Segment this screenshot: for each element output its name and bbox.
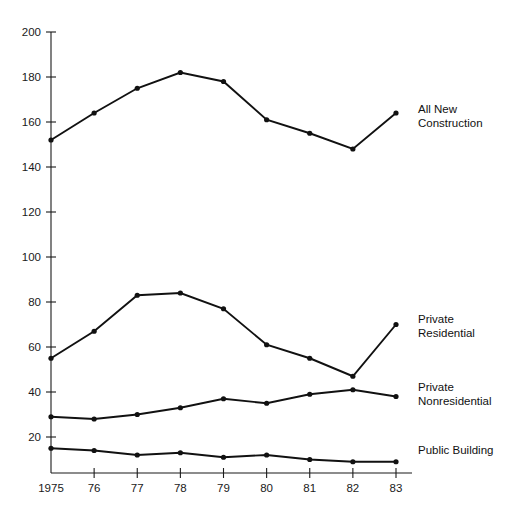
series-private-residential [48, 290, 398, 378]
data-point-all-new-construction [48, 137, 53, 142]
x-axis-tick-label: 77 [131, 482, 144, 494]
data-point-public-building [221, 455, 226, 460]
x-axis-tick-label: 1975 [38, 482, 64, 494]
series-label-line1: Private [418, 313, 475, 327]
series-label-line2: Nonresidential [418, 395, 492, 409]
data-point-public-building [48, 446, 53, 451]
data-point-public-building [264, 452, 269, 457]
x-axis-tick-label: 78 [174, 482, 187, 494]
data-point-all-new-construction [178, 70, 183, 75]
x-axis: 19757677787980818283 [38, 468, 412, 494]
series-label-private-residential: Private Residential [418, 313, 475, 340]
series-public-building [48, 446, 398, 465]
series-label-line2: Residential [418, 327, 475, 341]
data-point-private-nonresidential [178, 405, 183, 410]
x-axis-tick-label: 79 [217, 482, 230, 494]
data-point-private-nonresidential [307, 392, 312, 397]
data-point-public-building [350, 459, 355, 464]
x-axis-tick-label: 83 [390, 482, 403, 494]
data-point-private-residential [307, 356, 312, 361]
series-all-new-construction [48, 70, 398, 152]
y-axis-tick-label: 40 [28, 386, 41, 398]
y-axis-tick-label: 80 [28, 296, 41, 308]
series-label-private-nonresidential: Private Nonresidential [418, 381, 492, 408]
data-point-private-nonresidential [264, 401, 269, 406]
data-point-private-residential [264, 342, 269, 347]
data-point-all-new-construction [135, 86, 140, 91]
y-axis-tick-label: 200 [22, 26, 41, 38]
y-axis-tick-label: 60 [28, 341, 41, 353]
series-line-private-nonresidential [51, 390, 396, 419]
data-point-all-new-construction [393, 110, 398, 115]
y-axis-tick-label: 100 [22, 251, 41, 263]
data-point-public-building [178, 450, 183, 455]
data-point-private-nonresidential [92, 416, 97, 421]
data-point-public-building [307, 457, 312, 462]
x-axis-tick-label: 80 [260, 482, 273, 494]
series-label-all-new-construction: All New Construction [418, 103, 483, 130]
data-point-private-residential [48, 356, 53, 361]
series-label-public-building: Public Building [418, 444, 493, 458]
data-point-private-residential [92, 329, 97, 334]
series-label-line1: Private [418, 381, 492, 395]
series-line-private-residential [51, 293, 396, 376]
data-point-private-residential [135, 293, 140, 298]
series-label-line2: Construction [418, 117, 483, 131]
data-point-private-residential [393, 322, 398, 327]
data-point-public-building [135, 452, 140, 457]
series-label-line1: All New [418, 103, 483, 117]
data-point-private-nonresidential [393, 394, 398, 399]
x-axis-tick-label: 76 [88, 482, 101, 494]
x-axis-tick-label: 81 [303, 482, 316, 494]
line-chart: 20018016014012010080604020 1975767778798… [0, 0, 529, 515]
data-point-private-nonresidential [350, 387, 355, 392]
data-point-all-new-construction [307, 131, 312, 136]
y-axis-tick-label: 180 [22, 71, 41, 83]
x-axis-tick-label: 82 [346, 482, 359, 494]
data-point-all-new-construction [350, 146, 355, 151]
data-point-private-nonresidential [221, 396, 226, 401]
data-point-public-building [92, 448, 97, 453]
chart-plot-area: 20018016014012010080604020 1975767778798… [0, 0, 529, 515]
series-layer [48, 70, 398, 464]
y-axis-tick-label: 20 [28, 431, 41, 443]
data-point-public-building [393, 459, 398, 464]
series-private-nonresidential [48, 387, 398, 421]
data-point-private-residential [221, 306, 226, 311]
data-point-private-nonresidential [135, 412, 140, 417]
series-label-line1: Public Building [418, 444, 493, 458]
data-point-private-nonresidential [48, 414, 53, 419]
data-point-private-residential [178, 290, 183, 295]
y-axis-tick-label: 140 [22, 161, 41, 173]
data-point-all-new-construction [221, 79, 226, 84]
y-axis-tick-label: 160 [22, 116, 41, 128]
y-axis: 20018016014012010080604020 [22, 26, 56, 473]
data-point-all-new-construction [264, 117, 269, 122]
data-point-all-new-construction [92, 110, 97, 115]
data-point-private-residential [350, 374, 355, 379]
y-axis-tick-label: 120 [22, 206, 41, 218]
